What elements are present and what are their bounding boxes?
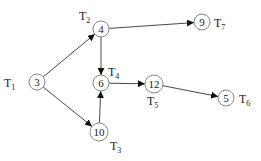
node-value: 3 (34, 76, 40, 88)
node-value: 4 (98, 23, 104, 35)
task-label-T6: T6 (239, 92, 250, 108)
task-label-T5: T5 (147, 94, 158, 110)
task-label-T7: T7 (214, 16, 225, 32)
node-9: 9 (194, 14, 210, 30)
edge-n4-to-n9 (109, 23, 194, 29)
task-subscript: 3 (117, 146, 121, 155)
edge-n3-to-n4 (43, 34, 95, 77)
edge-n12-to-n5 (163, 86, 218, 97)
node-4: 4 (93, 21, 109, 37)
task-subscript: 5 (154, 101, 158, 110)
node-value: 5 (223, 92, 229, 104)
edges-layer (43, 23, 218, 127)
node-3: 3 (29, 74, 45, 90)
task-label-T2: T2 (79, 9, 90, 25)
task-subscript: 6 (246, 99, 250, 108)
arrow-icon (43, 87, 92, 126)
nodes-layer: 349610125 (29, 14, 234, 141)
node-value: 12 (149, 78, 160, 90)
edge-n6-to-n12 (109, 83, 145, 84)
arrow-icon (109, 23, 194, 29)
task-label-T4: T4 (108, 65, 119, 81)
arrow-icon (109, 83, 145, 84)
arrow-icon (163, 86, 218, 97)
node-6: 6 (93, 75, 109, 91)
task-subscript: 4 (115, 72, 119, 81)
node-value: 6 (98, 77, 104, 89)
task-subscript: 2 (86, 16, 90, 25)
edge-n10-to-n6 (99, 91, 100, 123)
task-graph-diagram: 349610125 T1T2T7T4T3T5T6 (0, 0, 261, 161)
edge-n3-to-n10 (43, 87, 92, 126)
task-label-T3: T3 (110, 139, 121, 155)
task-subscript: 7 (221, 23, 225, 32)
node-value: 9 (199, 16, 205, 28)
task-label-T1: T1 (4, 76, 15, 92)
task-subscript: 1 (11, 83, 15, 92)
node-12: 12 (145, 75, 163, 93)
node-5: 5 (218, 90, 234, 106)
arrow-icon (99, 91, 100, 123)
node-10: 10 (90, 123, 108, 141)
node-value: 10 (94, 126, 106, 138)
arrow-icon (43, 34, 95, 77)
